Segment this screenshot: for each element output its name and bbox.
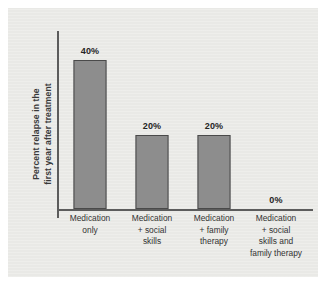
category-line: Medication xyxy=(243,213,309,225)
chart-panel: Percent relapse in the first year after … xyxy=(8,8,318,277)
bar-value-label: 40% xyxy=(81,46,100,56)
bar-value-label: 0% xyxy=(269,195,282,205)
bar-group-medication-family-therapy: 20% xyxy=(183,31,245,209)
category-line: therapy xyxy=(181,236,247,248)
chart-figure: Percent relapse in the first year after … xyxy=(0,0,331,293)
bar-value-label: 20% xyxy=(143,121,162,131)
x-axis-line xyxy=(57,209,313,211)
y-axis-title-line-1: Percent relapse in the xyxy=(31,83,43,184)
bar-group-medication-social-skills: 20% xyxy=(121,31,183,209)
y-axis-title: Percent relapse in the first year after … xyxy=(22,46,62,221)
bar-group-medication-social-skills-family-therapy: 0% xyxy=(245,31,307,209)
category-line: skills and xyxy=(243,236,309,248)
x-axis-category-labels: Medication only Medication + social skil… xyxy=(59,213,313,277)
bar-medication-family-therapy[interactable] xyxy=(198,135,231,209)
bar-group-medication-only: 40% xyxy=(59,31,121,209)
y-axis-title-line-2: first year after treatment xyxy=(42,83,54,184)
category-label-medication-social-skills: Medication + social skills xyxy=(119,213,185,248)
category-line: Medication xyxy=(57,213,123,225)
category-line: family therapy xyxy=(243,248,309,260)
category-line: + social xyxy=(243,225,309,237)
category-line: + social xyxy=(119,225,185,237)
category-label-medication-family-therapy: Medication + family therapy xyxy=(181,213,247,248)
bar-medication-social-skills[interactable] xyxy=(136,135,169,209)
category-line: only xyxy=(57,225,123,237)
category-line: Medication xyxy=(181,213,247,225)
category-label-medication-social-skills-family-therapy: Medication + social skills and family th… xyxy=(243,213,309,259)
category-label-medication-only: Medication only xyxy=(57,213,123,236)
plot-area: 40% 20% 20% 0% xyxy=(59,31,313,209)
category-line: Medication xyxy=(119,213,185,225)
category-line: skills xyxy=(119,236,185,248)
bar-medication-only[interactable] xyxy=(74,60,107,209)
category-line: + family xyxy=(181,225,247,237)
bar-value-label: 20% xyxy=(205,121,224,131)
